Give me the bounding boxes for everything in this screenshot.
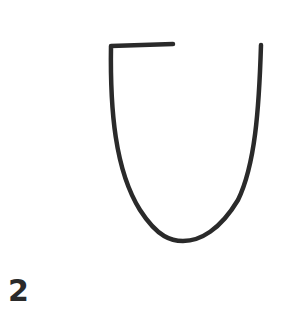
u-curve-stroke [111, 44, 261, 241]
hand-drawn-u-shape [0, 0, 282, 318]
figure-number-label: 2 [8, 276, 29, 306]
